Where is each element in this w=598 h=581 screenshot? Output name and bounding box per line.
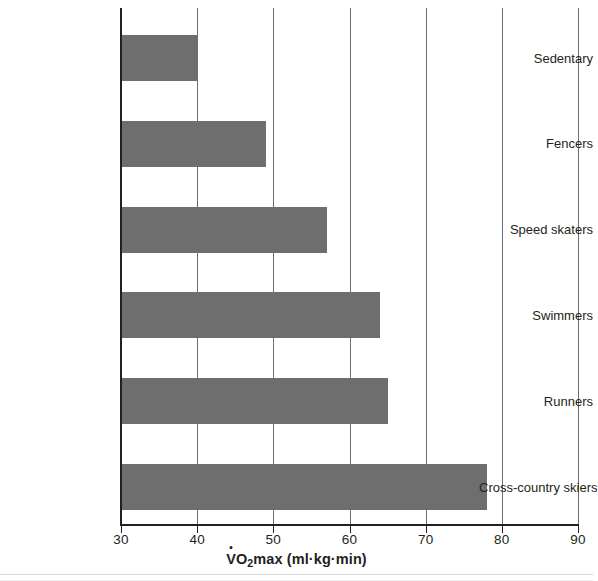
x-tick-label-70: 70 (406, 532, 446, 548)
gridline-50 (273, 8, 274, 525)
x-tick-label-50: 50 (253, 532, 293, 548)
y-axis-line (120, 8, 122, 526)
v-dot-glyph: V (226, 551, 236, 567)
x-axis-title-rest: max (ml·kg·min) (253, 551, 367, 567)
bar-cross-country-skiers (121, 464, 487, 510)
dot-overline-icon (230, 546, 233, 549)
x-tick-label-40: 40 (177, 532, 217, 548)
bar-fencers (121, 121, 266, 167)
category-label-runners: Runners (479, 394, 593, 409)
category-label-fencers: Fencers (479, 136, 593, 151)
category-label-sedentary: Sedentary (479, 51, 593, 66)
x-tick-label-80: 80 (482, 532, 522, 548)
x-axis-title-subscript: 2 (247, 557, 253, 569)
category-label-swimmers: Swimmers (479, 308, 593, 323)
bar-runners (121, 378, 388, 424)
x-axis-title: VO2max (ml·kg·min) (0, 551, 593, 567)
x-tick-label-60: 60 (330, 532, 370, 548)
x-axis-title-v: V (226, 551, 236, 567)
gridline-40 (197, 8, 198, 525)
gridline-60 (350, 8, 351, 525)
x-tick-label-90: 90 (558, 532, 598, 548)
gridline-90 (578, 8, 579, 525)
gridline-70 (426, 8, 427, 525)
gridline-80 (502, 8, 503, 525)
bar-sedentary (121, 35, 197, 81)
bar-swimmers (121, 292, 380, 338)
x-tick-label-30: 30 (101, 532, 141, 548)
bottom-separator (0, 574, 593, 575)
category-label-cross-country-skiers: Cross-country skiers (479, 480, 593, 495)
bar-speed-skaters (121, 207, 327, 253)
x-axis-title-o: O (236, 551, 247, 567)
category-label-speed-skaters: Speed skaters (479, 222, 593, 237)
plot-area (121, 8, 578, 525)
